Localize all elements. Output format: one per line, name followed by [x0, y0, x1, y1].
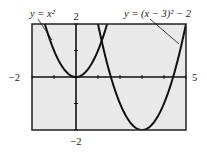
- annotation-series-0: y = x²: [29, 8, 56, 19]
- annotation-series-1: y = (x − 3)² − 2: [123, 8, 192, 20]
- xmax-label: 5: [192, 72, 197, 83]
- ymax-label: 2: [73, 11, 78, 22]
- ymin-label: −2: [70, 136, 81, 147]
- graph-figure: −252−2y = x²y = (x − 3)² − 2: [0, 0, 207, 153]
- xmin-label: −2: [9, 72, 20, 83]
- graphing-calculator-plot: −252−2y = x²y = (x − 3)² − 2: [0, 0, 207, 153]
